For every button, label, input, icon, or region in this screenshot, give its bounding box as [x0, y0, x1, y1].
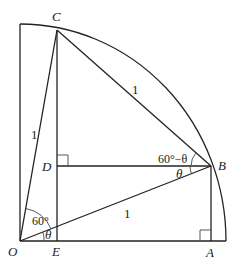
angle-arc-60-theta-B: [191, 153, 196, 166]
label-A: A: [205, 245, 214, 260]
angle-arc-theta-B: [190, 166, 192, 174]
geometry-diagram: C D B O E A 1 1 1 60° θ 60°−θ θ: [0, 0, 241, 271]
label-B: B: [218, 158, 226, 173]
label-CB-length: 1: [132, 82, 139, 97]
right-angle-D: [57, 155, 68, 166]
angle-arc-theta-O: [43, 232, 44, 241]
label-O: O: [8, 244, 18, 259]
label-D: D: [41, 159, 52, 174]
label-angle-theta-O: θ: [45, 227, 52, 242]
label-angle-60: 60°: [32, 214, 49, 228]
label-OB-length: 1: [124, 206, 131, 221]
label-angle-theta-B: θ: [176, 166, 183, 181]
right-angle-A: [200, 230, 211, 241]
label-C: C: [52, 9, 61, 24]
label-OC-length: 1: [31, 127, 38, 142]
label-angle-60-minus-theta: 60°−θ: [158, 152, 188, 166]
unit-arc: [20, 24, 226, 241]
segment-OC: [20, 30, 57, 241]
label-E: E: [51, 244, 60, 259]
segment-CB: [57, 30, 211, 166]
